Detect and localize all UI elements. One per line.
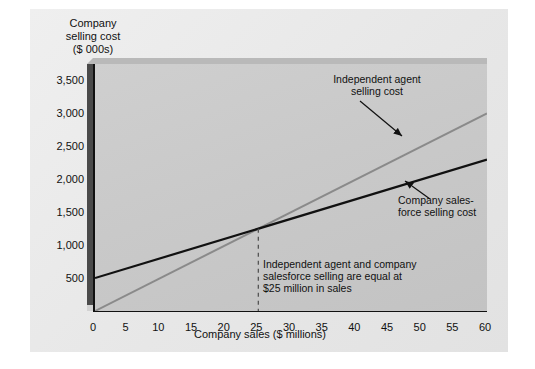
annotation-break-even: Independent agent and company salesforce… [263, 258, 453, 294]
y-axis-title-line-2: selling cost [38, 30, 148, 43]
y-axis-tick-labels: 5001,0001,5002,0002,5003,0003,500 [32, 58, 84, 318]
x-axis-tick-label: 60 [473, 321, 497, 333]
y-axis-title: Company selling cost ($ 000s) [38, 17, 148, 56]
y-axis-tick-label: 2,500 [40, 141, 84, 152]
x-axis-title: Company sales ($ millions) [90, 328, 430, 340]
annotation-independent-agent: Independent agent selling cost [302, 73, 452, 97]
annotation-break-even-line-1: Independent agent and company [263, 258, 453, 270]
annotation-company-salesforce: Company sales- force selling cost [398, 194, 518, 218]
chart-figure: Company selling cost ($ 000s) 5001,0001,… [30, 9, 508, 352]
y-axis-title-line-1: Company [38, 17, 148, 30]
y-axis-tick-label: 1,500 [40, 207, 84, 218]
x-axis-tick-label: 55 [440, 321, 464, 333]
annotation-company-salesforce-line-2: force selling cost [398, 206, 518, 218]
y-axis-tick-label: 3,500 [40, 75, 84, 86]
annotation-company-salesforce-line-1: Company sales- [398, 194, 518, 206]
annotation-break-even-line-2: salesforce selling are equal at [263, 270, 453, 282]
annotation-break-even-line-3: $25 million in sales [263, 282, 453, 294]
y-axis-tick-label: 2,000 [40, 174, 84, 185]
annotation-independent-agent-line-2: selling cost [302, 85, 452, 97]
annotation-independent-agent-line-1: Independent agent [302, 73, 452, 85]
y-axis-tick-label: 3,000 [40, 108, 84, 119]
y-axis-title-line-3: ($ 000s) [38, 43, 148, 56]
y-axis-tick-label: 500 [40, 273, 84, 284]
y-axis-tick-label: 1,000 [40, 240, 84, 251]
